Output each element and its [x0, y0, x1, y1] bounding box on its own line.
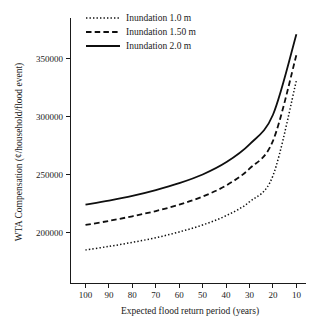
- y-tick-label: 250000: [36, 170, 64, 180]
- series-line-3: [86, 34, 297, 205]
- x-tick-label: 50: [198, 290, 208, 300]
- x-tick-label: 70: [151, 290, 161, 300]
- y-tick-label: 300000: [36, 112, 64, 122]
- x-tick-label: 20: [268, 290, 278, 300]
- y-axis-ticks: 200000 250000 300000 350000: [36, 54, 71, 238]
- legend-label-3: Inundation 2.0 m: [126, 41, 192, 51]
- x-tick-label: 30: [245, 290, 255, 300]
- y-axis-title: WTA Compensation (¢/household/flood even…: [14, 63, 25, 241]
- x-tick-label: 60: [175, 290, 185, 300]
- legend-label-2: Inundation 1.50 m: [126, 27, 197, 37]
- series-group: [86, 34, 297, 250]
- legend-label-1: Inundation 1.0 m: [126, 13, 192, 23]
- chart-legend: Inundation 1.0 mInundation 1.50 mInundat…: [86, 13, 197, 51]
- x-tick-label: 40: [222, 290, 232, 300]
- x-tick-label: 10: [292, 290, 302, 300]
- x-axis-title: Expected flood return period (years): [121, 306, 259, 317]
- y-tick-label: 200000: [36, 228, 64, 238]
- y-tick-label: 350000: [36, 54, 64, 64]
- series-line-1: [86, 81, 297, 250]
- x-tick-label: 100: [79, 290, 93, 300]
- chart-figure: 200000 250000 300000 350000 100 90 80 70…: [0, 0, 322, 331]
- x-tick-label: 80: [128, 290, 138, 300]
- line-chart: 200000 250000 300000 350000 100 90 80 70…: [0, 0, 322, 331]
- x-axis-ticks: 100 90 80 70 60 50 40 30 20 10: [79, 284, 302, 301]
- x-tick-label: 90: [104, 290, 114, 300]
